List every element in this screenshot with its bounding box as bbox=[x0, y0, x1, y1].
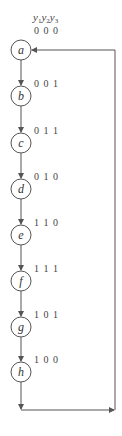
state-label: h bbox=[18, 365, 24, 379]
state-label: e bbox=[18, 228, 24, 242]
state-code: 0 1 0 bbox=[34, 171, 59, 182]
state-a: a0 0 0 bbox=[11, 25, 59, 85]
state-label: c bbox=[18, 136, 24, 150]
state-label: b bbox=[18, 89, 24, 103]
state-code: 0 0 0 bbox=[34, 25, 59, 36]
state-code: 1 0 1 bbox=[34, 309, 59, 320]
state-code: 1 0 0 bbox=[34, 354, 59, 365]
state-diagram: y1y2y3 a0 0 0b0 0 1c0 1 1d0 1 0e1 1 0f1 … bbox=[0, 0, 122, 436]
state-label: a bbox=[18, 43, 24, 57]
state-code: 0 1 1 bbox=[34, 125, 59, 136]
state-code: 1 1 0 bbox=[34, 217, 59, 228]
state-label: g bbox=[18, 320, 24, 334]
variable-header: y1y2y3 bbox=[32, 11, 59, 25]
state-code: 1 1 1 bbox=[34, 263, 59, 274]
state-b: b0 0 1 bbox=[11, 78, 59, 132]
state-label: d bbox=[18, 182, 25, 196]
state-h: h1 0 0 bbox=[11, 354, 59, 382]
state-code: 0 0 1 bbox=[34, 78, 59, 89]
